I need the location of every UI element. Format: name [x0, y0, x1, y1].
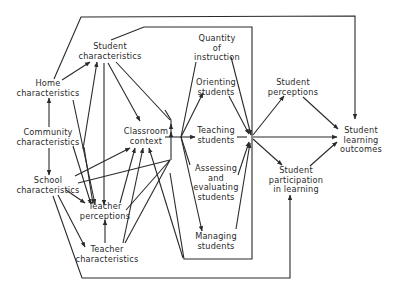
node-teacher-perceptions: Teacher perceptions [80, 202, 130, 221]
instructional-model-diagram: Student characteristics Home characteris… [0, 0, 393, 292]
node-quantity-of-instruction: Quantity of instruction [194, 34, 240, 63]
node-home-characteristics: Home characteristics [17, 79, 80, 98]
node-community-characteristics: Community characteristics [17, 128, 80, 147]
node-school-characteristics: School characteristics [17, 176, 80, 195]
node-managing-students: Managing students [195, 232, 237, 251]
node-assessing-evaluating-students: Assessing and evaluating students [193, 164, 238, 202]
node-student-learning-outcomes: Student learning outcomes [340, 126, 382, 155]
node-orienting-students: Orienting students [196, 78, 236, 97]
node-teacher-characteristics: Teacher characteristics [76, 245, 139, 264]
node-classroom-context: Classroom context [124, 127, 169, 146]
node-student-perceptions: Student perceptions [268, 78, 318, 97]
node-student-participation: Student participation in learning [269, 166, 323, 195]
node-student-characteristics: Student characteristics [79, 42, 142, 61]
node-teaching-students: Teaching students [197, 126, 235, 145]
